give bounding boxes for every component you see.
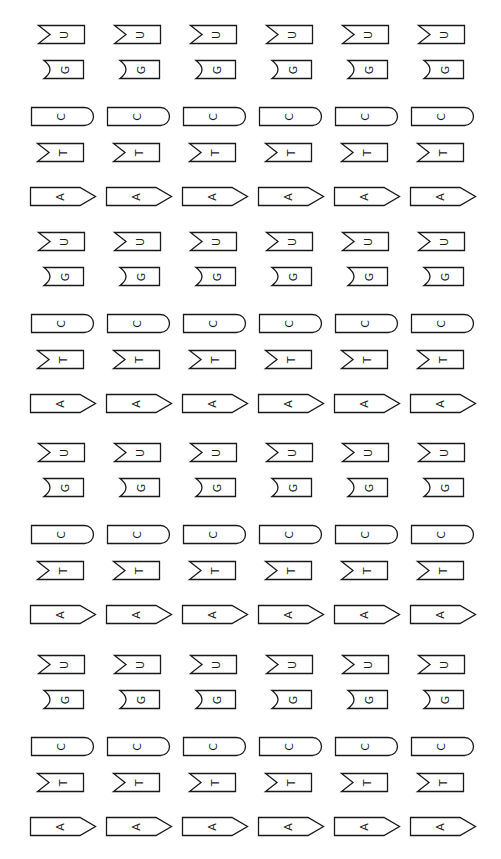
piece-g-b2-c5: G <box>346 267 388 286</box>
nucleotide-letter: A <box>54 611 65 619</box>
nucleotide-letter: A <box>434 611 445 619</box>
nucleotide-letter: A <box>206 611 217 619</box>
nucleotide-letter: C <box>436 320 447 328</box>
piece-g-b3-c3: G <box>194 478 236 497</box>
nucleotide-letter: G <box>440 272 451 281</box>
piece-a-b3-c4: A <box>258 605 324 624</box>
nucleotide-letter: U <box>210 237 221 245</box>
nucleotide-letter: T <box>285 149 296 156</box>
piece-g-b1-c3: G <box>194 60 236 79</box>
piece-u-b3-c5: U <box>342 443 389 462</box>
piece-g-b1-c6: G <box>422 60 464 79</box>
piece-g-b3-c4: G <box>270 478 312 497</box>
piece-t-b4-c4: T <box>265 773 312 792</box>
nucleotide-letter: A <box>54 193 65 201</box>
nucleotide-letter: C <box>284 113 295 121</box>
nucleotide-letter: G <box>288 65 299 74</box>
nucleotide-letter: A <box>54 400 65 408</box>
nucleotide-letter: T <box>57 567 68 574</box>
nucleotide-letter: T <box>209 356 220 363</box>
nucleotide-letter: T <box>209 567 220 574</box>
piece-a-b4-c4: A <box>258 817 324 836</box>
piece-t-b4-c6: T <box>417 773 464 792</box>
nucleotide-letter: A <box>358 823 369 831</box>
piece-u-b2-c4: U <box>266 232 313 251</box>
piece-a-b2-c1: A <box>30 394 96 413</box>
nucleotide-letter: C <box>436 113 447 121</box>
piece-c-b4-c6: C <box>411 737 474 756</box>
nucleotide-letter: C <box>132 531 143 539</box>
piece-u-b1-c6: U <box>418 25 465 44</box>
piece-g-b4-c4: G <box>270 690 312 709</box>
piece-u-b1-c2: U <box>114 25 161 44</box>
nucleotide-letter: G <box>440 483 451 492</box>
piece-c-b1-c1: C <box>31 107 94 126</box>
nucleotide-letter: U <box>286 660 297 668</box>
nucleotide-letter: T <box>437 149 448 156</box>
nucleotide-letter: G <box>364 695 375 704</box>
nucleotide-letter: G <box>60 695 71 704</box>
piece-c-b3-c4: C <box>259 525 322 544</box>
piece-u-b1-c3: U <box>190 25 237 44</box>
piece-t-b2-c5: T <box>341 350 388 369</box>
piece-c-b1-c2: C <box>107 107 170 126</box>
piece-c-b1-c5: C <box>335 107 398 126</box>
nucleotide-letter: C <box>360 531 371 539</box>
piece-a-b2-c6: A <box>410 394 476 413</box>
piece-t-b2-c4: T <box>265 350 312 369</box>
nucleotide-letter: U <box>438 237 449 245</box>
nucleotide-letter: U <box>58 660 69 668</box>
piece-g-b3-c6: G <box>422 478 464 497</box>
piece-t-b3-c4: T <box>265 561 312 580</box>
piece-g-b4-c5: G <box>346 690 388 709</box>
piece-a-b1-c1: A <box>30 187 96 206</box>
piece-u-b3-c1: U <box>38 443 85 462</box>
nucleotide-letter: T <box>285 356 296 363</box>
nucleotide-letter: T <box>57 779 68 786</box>
nucleotide-letter: G <box>364 272 375 281</box>
piece-u-b3-c4: U <box>266 443 313 462</box>
nucleotide-letter: G <box>440 695 451 704</box>
nucleotide-letter: T <box>133 356 144 363</box>
nucleotide-letter: G <box>60 483 71 492</box>
piece-c-b3-c2: C <box>107 525 170 544</box>
piece-a-b4-c6: A <box>410 817 476 836</box>
nucleotide-letter: T <box>437 356 448 363</box>
nucleotide-letter: C <box>360 113 371 121</box>
nucleotide-letter: U <box>210 660 221 668</box>
nucleotide-letter: G <box>212 695 223 704</box>
piece-t-b1-c1: T <box>37 143 84 162</box>
nucleotide-letter: C <box>132 320 143 328</box>
nucleotide-letter: U <box>362 448 373 456</box>
nucleotide-letter: G <box>288 695 299 704</box>
nucleotide-letter: A <box>282 611 293 619</box>
piece-t-b2-c2: T <box>113 350 160 369</box>
piece-u-b4-c3: U <box>190 655 237 674</box>
nucleotide-letter: U <box>58 30 69 38</box>
piece-t-b1-c4: T <box>265 143 312 162</box>
nucleotide-letter: U <box>134 237 145 245</box>
piece-a-b4-c5: A <box>334 817 400 836</box>
piece-c-b1-c6: C <box>411 107 474 126</box>
piece-g-b4-c6: G <box>422 690 464 709</box>
piece-c-b2-c6: C <box>411 314 474 333</box>
piece-g-b1-c5: G <box>346 60 388 79</box>
nucleotide-board: UUUUUUGGGGGGCCCCCCTTTTTTAAAAAAUUUUUUGGGG… <box>0 0 501 859</box>
piece-g-b1-c2: G <box>118 60 160 79</box>
piece-a-b2-c2: A <box>106 394 172 413</box>
piece-a-b1-c3: A <box>182 187 248 206</box>
nucleotide-letter: T <box>361 779 372 786</box>
piece-c-b2-c2: C <box>107 314 170 333</box>
nucleotide-letter: U <box>438 30 449 38</box>
nucleotide-letter: T <box>209 779 220 786</box>
nucleotide-letter: T <box>133 779 144 786</box>
nucleotide-letter: G <box>212 65 223 74</box>
piece-u-b2-c2: U <box>114 232 161 251</box>
nucleotide-letter: A <box>130 611 141 619</box>
piece-a-b1-c6: A <box>410 187 476 206</box>
piece-a-b2-c4: A <box>258 394 324 413</box>
nucleotide-letter: U <box>286 237 297 245</box>
nucleotide-letter: A <box>130 400 141 408</box>
piece-t-b1-c2: T <box>113 143 160 162</box>
nucleotide-letter: C <box>360 320 371 328</box>
